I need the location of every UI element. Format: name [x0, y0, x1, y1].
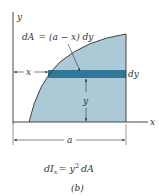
- dy-label: dy: [128, 69, 140, 79]
- area-moment-of-inertia-diagram: y x dA = (a − x) dy x dy y a dIx= y2dA (…: [0, 0, 159, 196]
- a-dimension-label: a: [67, 135, 72, 145]
- element-area-equation: dA = (a − x) dy: [22, 32, 94, 42]
- x-dimension-label: x: [26, 67, 31, 77]
- moment-of-inertia-equation: dIx= y2dA: [44, 162, 94, 176]
- differential-strip: [48, 70, 126, 78]
- x-axis-label: x: [150, 117, 155, 127]
- y-dimension-label: y: [82, 96, 89, 106]
- figure-caption: (b): [71, 183, 84, 193]
- y-axis-label: y: [16, 12, 23, 22]
